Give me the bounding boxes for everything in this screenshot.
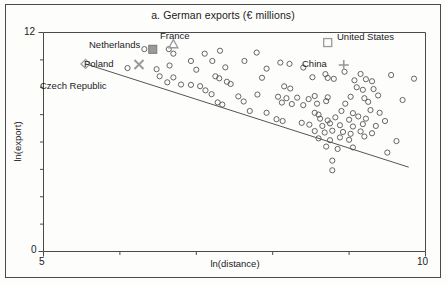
data-point-circle (171, 75, 176, 80)
marker-united-states (324, 39, 332, 47)
marker-china (339, 60, 349, 70)
data-point-circle (354, 85, 359, 90)
x-axis-tick-min: 5 (39, 256, 45, 267)
data-point-circle (142, 47, 147, 52)
data-point-circle (288, 86, 293, 91)
y-axis-tick-max: 12 (24, 26, 35, 37)
data-point-circle (350, 124, 355, 129)
data-point-circle (394, 138, 399, 143)
data-point-circle (330, 168, 335, 173)
data-point-circle (220, 102, 225, 107)
data-point-circle (157, 74, 162, 79)
data-point-circle (360, 87, 365, 92)
data-point-circle (301, 103, 306, 108)
data-point-circle (167, 63, 172, 68)
data-point-circle (274, 117, 279, 122)
data-point-circle (356, 114, 361, 119)
data-point-circle (223, 65, 228, 70)
data-point-circle (337, 135, 342, 140)
data-point-circle (350, 111, 355, 116)
marker-netherlands (149, 45, 157, 53)
data-point-circle (385, 150, 390, 155)
data-point-circle (280, 118, 285, 123)
data-point-circle (312, 128, 317, 133)
data-point-circle (320, 123, 325, 128)
y-axis-label: ln(export) (12, 112, 23, 172)
data-point-circle (307, 122, 312, 127)
point-label-united-states: United States (337, 31, 394, 42)
point-label-netherlands: Netherlands (89, 39, 140, 50)
data-point-circle (247, 108, 252, 113)
data-point-circle (242, 58, 247, 63)
data-point-circle (373, 123, 378, 128)
trendline (86, 64, 409, 167)
data-point-circle (210, 58, 215, 63)
data-point-circle (254, 50, 259, 55)
point-label-poland: Poland (84, 58, 114, 69)
marker-poland (135, 60, 144, 69)
data-point-circle (236, 94, 241, 99)
data-point-circle (335, 146, 340, 151)
data-point-circle (217, 48, 222, 53)
data-point-circle (331, 76, 336, 81)
data-point-circle (343, 101, 348, 106)
data-point-circle (324, 144, 329, 149)
scatter-plot-canvas (0, 0, 446, 283)
data-point-circle (330, 128, 335, 133)
point-label-china: China (302, 58, 327, 69)
regression-line (86, 64, 409, 167)
data-point-circle (369, 79, 374, 84)
data-point-circle (202, 51, 207, 56)
data-point-circle (312, 93, 317, 98)
y-axis-tick-min: 0 (31, 244, 37, 255)
data-point-circle (362, 134, 367, 139)
data-point-circle (154, 67, 159, 72)
data-point-circle (178, 82, 183, 87)
data-point-circle (348, 94, 353, 99)
data-point-circle (314, 101, 319, 106)
data-point-circle (306, 97, 311, 102)
figure-container: a. German exports (€ millions) ln(export… (0, 0, 446, 283)
data-point-circle (282, 84, 287, 89)
data-point-circle (358, 129, 363, 134)
data-point-circle (275, 94, 280, 99)
data-point-circle (377, 110, 382, 115)
x-axis-label: ln(distance) (160, 258, 310, 269)
data-point-circle (284, 96, 289, 101)
data-point-circle (165, 80, 170, 85)
data-point-circle (279, 100, 284, 105)
data-point-circle (363, 77, 368, 82)
data-point-circle (358, 71, 363, 76)
data-point-circle (299, 120, 304, 125)
data-point-circle (289, 101, 294, 106)
data-point-circle (203, 88, 208, 93)
data-point-circle (171, 51, 176, 56)
data-point-circle (241, 99, 246, 104)
data-point-circle (368, 107, 373, 112)
point-label-czech-republic: Czech Republic (40, 80, 107, 91)
data-point-circle (194, 67, 199, 72)
data-point-circle (348, 131, 353, 136)
data-point-circle (188, 58, 193, 63)
data-point-circle (337, 123, 342, 128)
data-point-circle (363, 116, 368, 121)
data-point-circle (340, 129, 345, 134)
data-point-circle (188, 82, 193, 87)
data-point-circle (264, 110, 269, 115)
data-point-circle (400, 97, 405, 102)
data-point-circle (264, 66, 269, 71)
data-point-circle (371, 86, 376, 91)
data-point-circle (352, 78, 357, 83)
data-point-circle (125, 65, 130, 70)
data-points (125, 47, 417, 173)
data-point-circle (382, 118, 387, 123)
data-point-circle (310, 75, 315, 80)
data-point-circle (295, 95, 300, 100)
data-point-circle (347, 137, 352, 142)
data-point-circle (347, 117, 352, 122)
data-point-circle (366, 99, 371, 104)
data-point-circle (259, 75, 264, 80)
data-point-circle (376, 93, 381, 98)
data-point-circle (209, 92, 214, 97)
data-point-circle (389, 72, 394, 77)
